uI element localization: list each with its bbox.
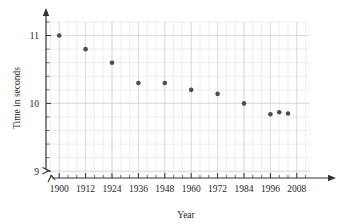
y-axis-tick-labels: 91011 (30, 31, 40, 177)
x-tick-label: 1900 (50, 184, 69, 194)
chart-canvas: 91011 1900191219241936194819601972198419… (0, 0, 338, 224)
y-axis-arrowhead (43, 8, 49, 16)
x-tick-label: 1996 (261, 184, 280, 194)
x-tick-label: 2008 (287, 184, 306, 194)
data-point (242, 101, 247, 106)
data-point (268, 112, 273, 117)
y-tick-label: 9 (34, 167, 39, 177)
x-axis-break-icon (48, 176, 55, 183)
x-axis-tick-labels: 1900191219241936194819601972198419962008 (50, 184, 307, 194)
data-point (163, 81, 168, 86)
grid-major-lines (46, 22, 310, 178)
data-point (189, 88, 194, 93)
data-point (110, 60, 115, 65)
data-point (83, 47, 88, 52)
x-tick-label: 1912 (76, 184, 95, 194)
x-tick-label: 1972 (208, 184, 227, 194)
x-axis-title: Year (177, 210, 195, 220)
scatter-chart: 91011 1900191219241936194819601972198419… (0, 0, 338, 224)
x-tick-label: 1960 (182, 184, 201, 194)
data-point (57, 33, 62, 38)
data-point (286, 111, 291, 116)
y-tick-label: 11 (30, 31, 39, 41)
x-axis-ticks (50, 173, 305, 178)
x-axis-arrowhead (328, 175, 336, 181)
axes (43, 8, 337, 182)
x-tick-label: 1936 (129, 184, 148, 194)
x-tick-label: 1924 (103, 184, 122, 194)
y-axis-title: Time in seconds (12, 67, 22, 129)
y-tick-label: 10 (30, 99, 40, 109)
data-point (215, 92, 220, 97)
x-tick-label: 1984 (235, 184, 254, 194)
data-point (136, 81, 141, 86)
data-point (277, 110, 282, 115)
x-tick-label: 1948 (155, 184, 174, 194)
